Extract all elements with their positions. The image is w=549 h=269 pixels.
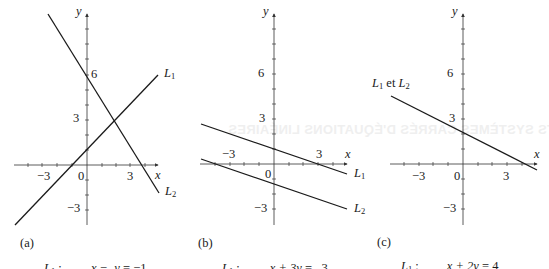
panel-a-line-L2	[48, 14, 159, 193]
panel-c-tick-3-x: 3	[503, 169, 509, 184]
panel-b-tick-3-x: 3	[316, 147, 322, 162]
panel-a-tick-origin: 0	[78, 169, 84, 184]
panel-b-equation-L1: L1 :x + 3y = 3	[222, 260, 328, 269]
panel-a-tag: (a)	[20, 236, 34, 251]
panel-a-plot	[14, 14, 159, 225]
panel-b-tick-neg3-y: −3	[254, 201, 267, 216]
panel-b-tag: (b)	[198, 236, 213, 251]
panel-a-label-L2: L2	[165, 184, 176, 199]
panel-b-tick-3: 3	[259, 111, 265, 126]
panel-c-line-L1-L2	[391, 96, 537, 170]
panel-b-y-axis-label: y	[263, 4, 269, 19]
figure-three-linear-systems: 4. PETITS SYSTÈMES CARRÉS D'ÉQUATIONS LI…	[0, 0, 549, 269]
panel-c-tick-6: 6	[447, 66, 453, 81]
panel-a-tick-6: 6	[91, 67, 97, 82]
panel-a-tick-3-x: 3	[127, 169, 133, 184]
panel-c-y-axis-label: y	[452, 4, 458, 19]
panel-a-label-L1: L1	[164, 66, 175, 81]
panel-a-tick-3: 3	[73, 111, 79, 126]
panel-a-tick-neg3-y: −3	[67, 201, 80, 216]
panel-b-equations: L1 :x + 3y = 3 L2 :2x + 6y = −8	[222, 226, 328, 269]
panel-c-equations: L1 :x + 2y = 4 L2 :2x + 4y = 8	[401, 224, 498, 269]
panel-c-label-L1-et-L2: L1 et L2	[372, 76, 410, 91]
panel-c-tick-neg3-y: −3	[443, 201, 456, 216]
panel-c-tick-origin: 0	[454, 169, 460, 184]
panel-a-x-axis-label: x	[155, 168, 161, 183]
panel-a-equation-L1: L1 :x − y = −1	[44, 260, 149, 269]
panel-c-tick-neg3-x: −3	[412, 169, 425, 184]
panel-a-y-axis-label: y	[76, 4, 82, 19]
panel-c-tick-3: 3	[449, 111, 455, 126]
panel-a-line-L1	[15, 75, 158, 225]
panel-b-tick-6: 6	[258, 66, 264, 81]
panel-b-tick-origin: 0	[265, 167, 271, 182]
panel-b-tick-neg3-x: −3	[222, 147, 235, 162]
panel-b-plot	[200, 14, 347, 225]
panel-c-x-axis-label: x	[534, 147, 540, 162]
panel-a-tick-neg3-x: −3	[37, 169, 50, 184]
panel-c-tag: (c)	[377, 235, 391, 250]
panel-b-label-L2: L2	[354, 201, 365, 216]
panel-b-x-axis-label: x	[345, 147, 351, 162]
panel-a-equations: L1 :x − y = −1 L2 :3x + 2y = 12	[44, 226, 149, 269]
panel-c-plot	[390, 14, 537, 225]
panel-b-label-L1: L1	[354, 166, 365, 181]
panel-c-equation-L1: L1 :x + 2y = 4	[401, 258, 498, 269]
